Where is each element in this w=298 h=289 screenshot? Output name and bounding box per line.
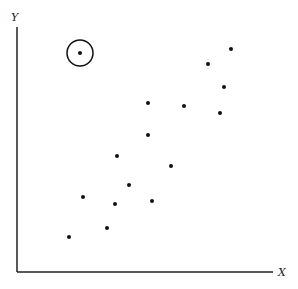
data-point: [115, 154, 119, 158]
data-point: [150, 199, 154, 203]
data-point: [206, 62, 210, 66]
y-axis-label: Y: [11, 11, 20, 24]
data-point: [105, 226, 109, 230]
data-point: [146, 101, 150, 105]
data-points: [67, 40, 233, 239]
data-point: [229, 47, 233, 51]
data-point: [182, 104, 186, 108]
data-point: [113, 202, 117, 206]
data-point: [127, 183, 131, 187]
outlier-point: [78, 51, 82, 55]
x-axis-label: X: [277, 266, 287, 279]
data-point: [222, 85, 226, 89]
data-point: [81, 195, 85, 199]
data-point: [146, 133, 150, 137]
data-point: [67, 235, 71, 239]
data-point: [169, 164, 173, 168]
data-point: [218, 111, 222, 115]
scatter-chart: Y X: [0, 0, 298, 289]
